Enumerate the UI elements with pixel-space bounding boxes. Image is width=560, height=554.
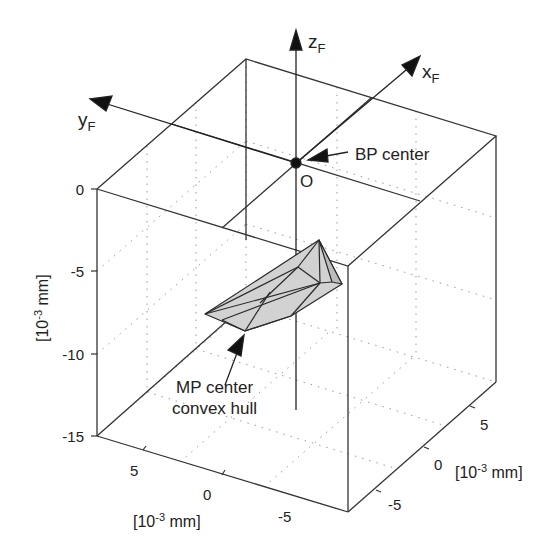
mp-arrowhead-icon: [228, 335, 244, 356]
z-axis-arrowhead-icon: [290, 30, 302, 50]
z-tick-label: 0: [76, 181, 84, 198]
origin-label: O: [300, 172, 313, 191]
bp-center-label: BP center: [355, 145, 430, 164]
right-depth-tick-label: -5: [388, 496, 401, 513]
y-axis-arrowhead-icon: [90, 96, 112, 111]
right-unit-label: [10-3 mm]: [455, 462, 523, 481]
figure: yF xF zF O BP center MP center convex hu…: [0, 0, 560, 554]
coordinate-axes: [90, 30, 420, 410]
mp-center-convex-hull: [205, 240, 342, 331]
tick-marks: [91, 189, 475, 492]
z-axis-label: zF: [308, 31, 326, 56]
x-axis-arrowhead-icon: [402, 56, 420, 76]
x-axis-label: xF: [422, 61, 440, 86]
origin-point: [291, 158, 301, 168]
vertical-unit-label: [10-3 mm]: [32, 274, 51, 342]
left-depth-tick-label: 0: [203, 486, 211, 503]
mp-center-label-line2: convex hull: [172, 399, 257, 418]
right-depth-tick-label: 0: [434, 456, 442, 473]
right-depth-tick-label: 5: [480, 416, 488, 433]
mp-center-label-line1: MP center: [176, 378, 254, 397]
z-tick-label: -10: [62, 346, 84, 363]
left-depth-tick-label: -5: [278, 508, 291, 525]
left-unit-label: [10-3 mm]: [133, 511, 201, 530]
z-tick-label: -5: [71, 263, 84, 280]
z-tick-label: -15: [62, 428, 84, 445]
y-axis-label: yF: [78, 109, 96, 134]
left-depth-tick-label: 5: [130, 462, 138, 479]
